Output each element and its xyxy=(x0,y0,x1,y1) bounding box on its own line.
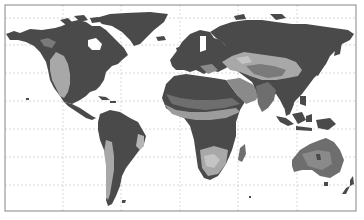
hawaii xyxy=(26,98,29,100)
small-pacific-island xyxy=(249,196,251,198)
world-map-svg xyxy=(0,0,364,220)
world-map xyxy=(0,0,364,220)
